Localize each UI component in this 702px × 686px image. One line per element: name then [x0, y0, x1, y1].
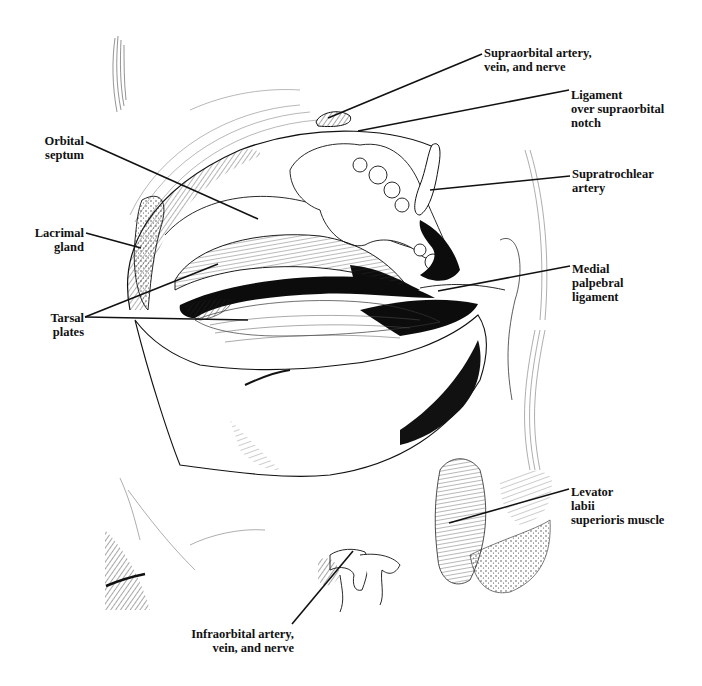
label-line: palpebral	[572, 276, 623, 290]
leader-lines	[85, 54, 570, 624]
label-line: notch	[571, 116, 664, 130]
cheek-hatch-right	[500, 471, 552, 525]
leader-line-supratrochlear	[430, 176, 570, 190]
leader-line-supraorbital	[328, 54, 482, 118]
label-line: over supraorbital	[571, 102, 664, 116]
leader-line-ligament-notch	[358, 90, 569, 131]
nose-side-hatching	[525, 150, 547, 470]
label-line: ligament	[572, 290, 623, 304]
label-line: Tarsal	[50, 311, 84, 325]
label-supraorbital: Supraorbital artery,vein, and nerve	[484, 46, 592, 74]
label-line: gland	[35, 240, 84, 254]
label-ligament-notch: Ligamentover supraorbitalnotch	[571, 88, 664, 130]
eyebrow-hatching	[113, 36, 126, 112]
label-line: Ligament	[571, 88, 664, 102]
label-medial-palpebral: Medialpalpebralligament	[572, 262, 623, 304]
label-line: Infraorbital artery,	[191, 627, 294, 641]
label-line: Medial	[572, 262, 623, 276]
leader-line-lacrimal-gland	[86, 233, 141, 248]
mouth-corner-hatch	[105, 530, 150, 610]
lower-lid-flap	[135, 315, 487, 476]
label-line: septum	[44, 148, 84, 162]
label-line: Lacrimal	[35, 226, 84, 240]
label-line: vein, and nerve	[484, 60, 592, 74]
medial-palpebral-ligament	[420, 285, 505, 291]
label-line: plates	[50, 325, 84, 339]
label-line: Supratrochlear	[572, 167, 654, 181]
supraorbital-vessels	[316, 112, 351, 127]
leader-line-tarsal-plates	[85, 317, 248, 320]
lacrimal-gland	[134, 196, 164, 310]
label-infraorbital: Infraorbital artery,vein, and nerve	[191, 627, 294, 655]
label-line: Levator	[571, 485, 664, 499]
supratrochlear-artery	[415, 144, 440, 215]
infraorbital-vessels	[330, 549, 400, 612]
label-line: superioris muscle	[571, 513, 664, 527]
label-supratrochlear: Supratrochlearartery	[572, 167, 654, 195]
label-orbital-septum: Orbitalseptum	[44, 134, 84, 162]
cheek-contours	[120, 478, 265, 570]
label-line: Supraorbital artery,	[484, 46, 592, 60]
label-levator-labii: Levatorlabiisuperioris muscle	[571, 485, 664, 527]
label-line: Orbital	[44, 134, 84, 148]
label-line: artery	[572, 181, 654, 195]
label-line: labii	[571, 499, 664, 513]
label-line: vein, and nerve	[191, 641, 294, 655]
label-lacrimal-gland: Lacrimalgland	[35, 226, 84, 254]
nasal-outline	[500, 238, 520, 400]
label-tarsal-plates: Tarsalplates	[50, 311, 84, 339]
